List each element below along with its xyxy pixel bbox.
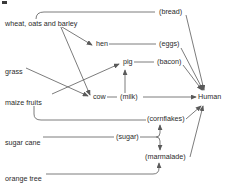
node-cornflakes: (cornflakes)	[146, 115, 186, 122]
edge-wheat-bread	[36, 12, 155, 19]
node-maize: maize fruits	[4, 99, 43, 106]
node-orange-tree: orange tree	[4, 175, 43, 182]
edge-bread-human	[186, 15, 204, 90]
node-cow: cow	[92, 93, 107, 100]
node-hen: hen	[95, 40, 109, 47]
node-pig: pig	[122, 58, 134, 65]
edge-orangetree-marmalade	[46, 163, 159, 174]
node-wheat: wheat, oats and barley	[4, 20, 78, 27]
edge-sugar-cornflakes	[156, 125, 160, 137]
edge-wheat-cow	[60, 25, 90, 95]
node-sugar-cane: sugar cane	[4, 139, 42, 146]
node-milk: (milk)	[119, 93, 139, 100]
node-sugar: (sugar)	[115, 133, 140, 140]
node-eggs: (eggs)	[158, 40, 180, 47]
food-chain-diagram: wheat, oats and barley grass maize fruit…	[0, 0, 229, 189]
node-bread: (bread)	[158, 8, 183, 15]
node-marmalade: (marmalade)	[144, 153, 187, 160]
edge-maize-cornflakes	[34, 103, 146, 120]
node-human: Human	[197, 93, 222, 100]
edge-layer	[0, 0, 229, 189]
node-bacon: (bacon)	[156, 58, 182, 65]
edge-sugar-marmalade	[156, 137, 160, 150]
edge-cornflakes-human	[186, 106, 201, 119]
edge-maize-pig	[52, 64, 119, 94]
node-grass: grass	[4, 68, 24, 75]
edge-eggs-human	[181, 48, 203, 90]
